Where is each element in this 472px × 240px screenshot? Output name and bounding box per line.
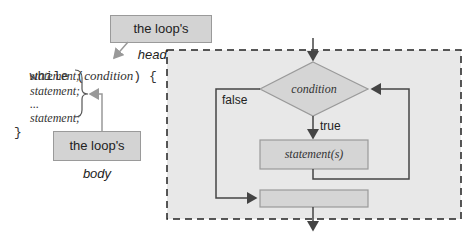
exit-box bbox=[260, 190, 368, 207]
flowchart bbox=[0, 0, 472, 240]
condition-label: condition bbox=[260, 82, 368, 97]
false-label: false bbox=[222, 93, 247, 107]
true-label: true bbox=[320, 119, 341, 133]
statement-label: statement(s) bbox=[260, 147, 368, 162]
